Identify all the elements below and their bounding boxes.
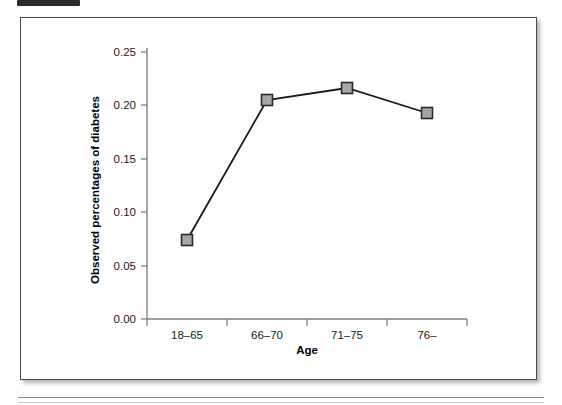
page-horizontal-rule-secondary (18, 402, 544, 403)
x-tick-label-4: 76– (417, 329, 437, 341)
y-tick-label-0.25: 0.25 (114, 46, 136, 58)
data-point-marker-4 (422, 108, 433, 119)
x-tick-label-1: 18–65 (171, 329, 203, 341)
y-tick-label-0.10: 0.10 (114, 206, 136, 218)
x-axis-ticks (147, 319, 467, 326)
y-tick-label-0.20: 0.20 (114, 99, 136, 111)
x-tick-label-3: 71–75 (331, 329, 363, 341)
data-series-line (187, 88, 427, 240)
y-axis-ticks (141, 52, 147, 319)
y-axis-title: Observed percentages of diabetes (89, 96, 101, 284)
x-axis-title: Age (296, 344, 318, 356)
data-point-marker-3 (342, 83, 353, 94)
data-point-markers (182, 83, 433, 246)
page-horizontal-rule (18, 397, 544, 398)
y-tick-label-0.00: 0.00 (114, 313, 136, 325)
data-point-marker-2 (262, 95, 273, 106)
y-tick-label-0.05: 0.05 (114, 260, 136, 272)
data-point-marker-1 (182, 235, 193, 246)
y-tick-label-0.15: 0.15 (114, 153, 136, 165)
x-tick-label-2: 66–70 (251, 329, 283, 341)
chart-plot: 0.25 0.20 0.15 0.10 0.05 0.00 18–65 66–7… (0, 0, 562, 405)
